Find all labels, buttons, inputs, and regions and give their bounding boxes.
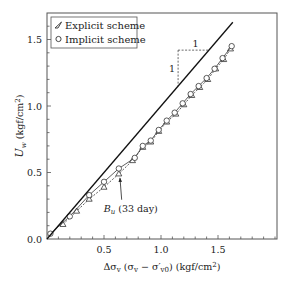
xlabel-sub3: v0 (160, 266, 169, 274)
data-point-circle (180, 101, 185, 106)
data-point-circle (140, 143, 145, 148)
bu-label: Bu (33 day) (103, 203, 158, 217)
data-point-circle (196, 83, 201, 88)
tick-labels: 0.51.01.50.00.51.01.5 (27, 34, 226, 255)
x-tick-label: 1.5 (210, 244, 225, 255)
bu-label-tail: (33 day) (115, 203, 158, 214)
data-point-circle (172, 110, 177, 115)
xlabel-main: Δσ (103, 261, 117, 272)
xlabel-mid2: − σ′ (138, 261, 161, 272)
data-point-circle (101, 179, 106, 184)
slope-triangle: 11 (169, 38, 209, 86)
slope-label-vertical: 1 (169, 63, 175, 74)
x-axis-label: Δσv (σv − σ′v0) (kgf/cm2) (103, 261, 220, 275)
ylabel-end: ) (14, 94, 25, 98)
data-point-circle (164, 118, 169, 123)
slope-label-horizontal: 1 (192, 38, 198, 49)
legend-label-explicit: Explicit scheme (65, 20, 145, 31)
xlabel-mid: (σ (121, 261, 135, 272)
data-point-circle (156, 127, 161, 132)
series-explicit-scheme (60, 46, 234, 227)
legend: Explicit scheme Implicit scheme (51, 17, 146, 48)
bu-label-main: B (103, 203, 111, 214)
data-point-circle (132, 155, 137, 160)
y-tick-label: 1.5 (27, 34, 42, 45)
data-point-circle (188, 91, 193, 96)
data-point-circle (86, 192, 91, 197)
ylabel-tail: (kgf/cm (14, 103, 25, 143)
data-point-circle (116, 166, 121, 171)
bu-arrowhead (118, 178, 122, 182)
data-point-circle (229, 43, 234, 48)
y-tick-label: 1.0 (27, 101, 42, 112)
chart: 0.51.01.50.00.51.01.5 11 Explicit scheme… (0, 0, 292, 286)
xlabel-end: ) (217, 261, 221, 272)
data-point-circle (204, 75, 209, 80)
data-point-circle (212, 66, 217, 71)
annotation-bu: Bu (33 day) (103, 178, 158, 216)
legend-label-implicit: Implicit scheme (65, 34, 146, 45)
data-point-circle (220, 55, 225, 60)
data-point-circle (148, 138, 153, 143)
y-axis-label: Uw (kgf/cm2) (13, 94, 28, 157)
y-tick-label: 0.5 (27, 167, 42, 178)
x-tick-label: 1.0 (153, 244, 168, 255)
xlabel-tail: ) (kgf/cm (169, 261, 212, 272)
x-tick-label: 0.5 (96, 244, 111, 255)
y-tick-label: 0.0 (27, 234, 42, 245)
